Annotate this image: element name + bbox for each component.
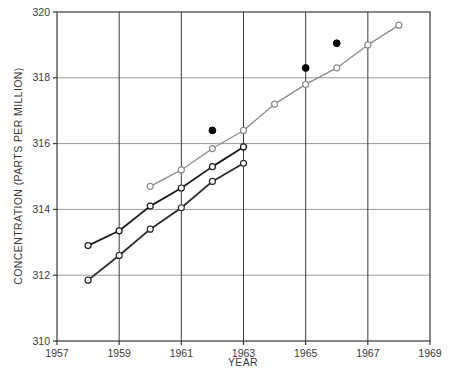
data-point-marker (209, 178, 215, 184)
data-point-marker (178, 167, 184, 173)
data-point-marker (209, 164, 215, 170)
data-point-marker (116, 252, 122, 258)
data-point-marker (147, 226, 153, 232)
ytick-label-316: 316 (32, 137, 50, 149)
y-axis-title: CONCENTRATION (PARTS PER MILLION) (12, 67, 24, 284)
ytick-label-312: 312 (32, 269, 50, 281)
data-point-marker (396, 22, 402, 28)
concentration-vs-year-line-chart: 310312314316318320 195719591961196319651… (0, 0, 451, 375)
xtick-label-1965: 1965 (294, 347, 318, 359)
data-point-marker (147, 183, 153, 189)
data-point-marker (241, 127, 247, 133)
filled-data-point-marker (302, 65, 309, 72)
data-point-marker (178, 185, 184, 191)
x-axis-title: YEAR (228, 356, 258, 368)
xtick-label-1967: 1967 (356, 347, 380, 359)
data-point-marker (178, 205, 184, 211)
xtick-label-1969: 1969 (418, 347, 442, 359)
ytick-label-318: 318 (32, 71, 50, 83)
data-point-marker (85, 243, 91, 249)
ytick-label-310: 310 (32, 335, 50, 347)
chart-background (0, 0, 451, 375)
data-point-marker (365, 42, 371, 48)
data-point-marker (85, 277, 91, 283)
ytick-label-314: 314 (32, 203, 50, 215)
data-point-marker (241, 144, 247, 150)
filled-data-point-marker (209, 127, 216, 134)
data-point-marker (116, 228, 122, 234)
ytick-label-320: 320 (32, 6, 50, 18)
data-point-marker (241, 160, 247, 166)
xtick-label-1959: 1959 (107, 347, 131, 359)
data-point-marker (334, 65, 340, 71)
data-point-marker (303, 81, 309, 87)
xtick-label-1961: 1961 (170, 347, 194, 359)
xtick-label-1957: 1957 (45, 347, 69, 359)
filled-data-point-marker (333, 40, 340, 47)
data-point-marker (147, 203, 153, 209)
data-point-marker (209, 146, 215, 152)
chart-container: 310312314316318320 195719591961196319651… (0, 0, 451, 375)
data-point-marker (272, 101, 278, 107)
